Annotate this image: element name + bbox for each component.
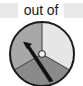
- spinner-dial[interactable]: [8, 21, 76, 86]
- numerator-input[interactable]: [0, 3, 18, 18]
- denominator-input[interactable]: [64, 3, 83, 18]
- out-of-label: out of: [18, 3, 64, 18]
- spinner-hub[interactable]: [39, 51, 46, 58]
- spinner-graphic[interactable]: [8, 21, 76, 86]
- fraction-input-row: out of: [0, 0, 83, 21]
- probability-spinner-widget: out of: [0, 0, 83, 86]
